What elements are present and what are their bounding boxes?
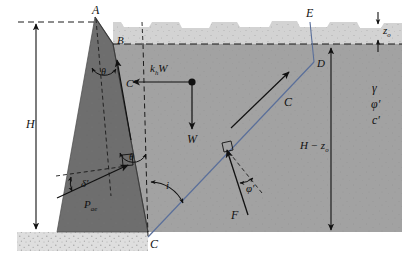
point-label-D: D [317, 58, 325, 69]
force-label-c: C [284, 96, 292, 108]
force-label-pae-sub: ae [91, 205, 97, 212]
tension-crack-band [113, 21, 402, 44]
soil-property-c-prime: c′ [372, 114, 380, 126]
dimension-label-H-minus-zo-text: H − z [300, 139, 325, 151]
point-label-B: B [117, 35, 124, 46]
force-label-kh-w: khW [150, 63, 167, 77]
dimension-label-H-minus-zo-sub: o [325, 146, 328, 153]
soil-property-phi-prime: φ′ [371, 98, 380, 110]
dimension-label-zo: zo [383, 25, 391, 39]
force-label-kh-w-W: W [158, 62, 167, 74]
force-label-f: F [231, 209, 238, 221]
dimension-label-H: H [26, 118, 35, 130]
force-label-pae-p: P [84, 198, 91, 210]
angle-label-theta-lower: θ [129, 152, 134, 162]
soil-property-gamma: γ [372, 82, 377, 94]
force-label-pae: Pae [84, 199, 97, 213]
point-label-A: A [92, 4, 99, 16]
point-label-C: C [150, 238, 158, 250]
diagram-svg [0, 0, 402, 262]
dimension-label-zo-sub: o [387, 31, 390, 38]
angle-label-theta-upper: θ [101, 67, 106, 77]
dimension-label-H-minus-zo: H − zo [300, 140, 329, 154]
point-label-E: E [306, 7, 313, 19]
angle-label-delta-prime: δ′ [81, 178, 89, 189]
force-label-c-prime: C′ [126, 78, 136, 89]
foundation-strip [17, 232, 148, 251]
force-label-w: W [187, 133, 197, 145]
angle-label-phi-prime: φ′ [246, 183, 255, 194]
figure-canvas: A B C D E H H − zo zo khW W C C′ F Pae θ… [0, 0, 402, 262]
angle-label-i: i [166, 180, 169, 191]
